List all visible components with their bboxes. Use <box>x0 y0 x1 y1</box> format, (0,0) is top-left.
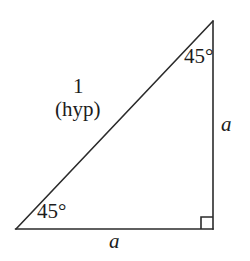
hypotenuse-name-label: (hyp) <box>55 99 101 120</box>
angle-label-bottom-left: 45° <box>37 201 66 222</box>
hypotenuse-length-label: 1 <box>73 76 84 97</box>
triangle-figure: 45° 45° 1 (hyp) a a <box>0 0 250 261</box>
right-angle-icon <box>201 217 213 229</box>
vertical-leg-label: a <box>221 114 232 135</box>
horizontal-leg-label: a <box>109 231 120 252</box>
angle-label-apex: 45° <box>184 46 213 67</box>
